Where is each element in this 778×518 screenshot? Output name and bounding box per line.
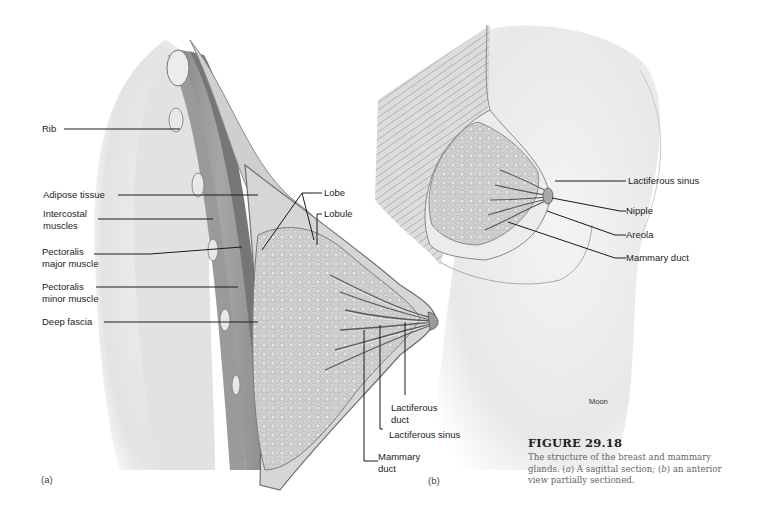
figure-number: FIGURE 29.18	[528, 436, 768, 450]
label-nipple: Nipple	[626, 205, 653, 217]
label-pectoralis-major-muscle: Pectoralis major muscle	[42, 246, 99, 270]
label-pec-major-line1: Pectoralis	[42, 246, 84, 257]
label-pec-minor-line2: minor muscle	[42, 293, 99, 304]
panel-tag-b: (b)	[428, 475, 440, 486]
label-intercostal-line2: muscles	[43, 220, 78, 231]
label-mammary-duct-line1: Mammary	[378, 451, 420, 462]
label-lact-duct-line2: duct	[391, 414, 409, 425]
label-adipose-tissue: Adipose tissue	[43, 189, 105, 201]
label-lobule: Lobule	[324, 208, 353, 220]
caption-line-2a: glands. (	[528, 464, 566, 474]
figure-caption: FIGURE 29.18 The structure of the breast…	[528, 436, 768, 487]
label-pectoralis-minor-muscle: Pectoralis minor muscle	[42, 281, 99, 305]
panel-tag-a: (a)	[41, 474, 53, 485]
label-mammary-duct-b: Mammary duct	[626, 252, 689, 264]
label-pec-major-line2: major muscle	[42, 258, 99, 269]
label-areola: Areola	[626, 229, 653, 241]
caption-line-3: view partially sectioned.	[528, 475, 634, 485]
label-pec-minor-line1: Pectoralis	[42, 281, 84, 292]
label-lactiferous-sinus-b: Lactiferous sinus	[628, 175, 699, 187]
figure-caption-text: The structure of the breast and mammary …	[528, 452, 768, 487]
label-deep-fascia: Deep fascia	[42, 316, 92, 328]
label-lactiferous-duct: Lactiferous duct	[391, 402, 437, 426]
caption-line-2b: ) A sagittal section; (	[571, 464, 662, 474]
label-mammary-duct-line2: duct	[378, 463, 396, 474]
label-lobe: Lobe	[324, 187, 345, 199]
caption-line-1: The structure of the breast and mammary	[528, 452, 711, 462]
label-intercostal-muscles: Intercostal muscles	[43, 208, 87, 232]
illustrator-credit: Moon	[589, 397, 608, 406]
label-mammary-duct-a: Mammary duct	[378, 451, 420, 475]
figure-29-18: Rib Adipose tissue Intercostal muscles P…	[0, 0, 778, 518]
caption-line-2c: ) an anterior	[667, 464, 722, 474]
label-intercostal-line1: Intercostal	[43, 208, 87, 219]
label-rib: Rib	[42, 123, 56, 135]
label-lact-duct-line1: Lactiferous	[391, 402, 437, 413]
label-lactiferous-sinus-a: Lactiferous sinus	[389, 429, 460, 441]
